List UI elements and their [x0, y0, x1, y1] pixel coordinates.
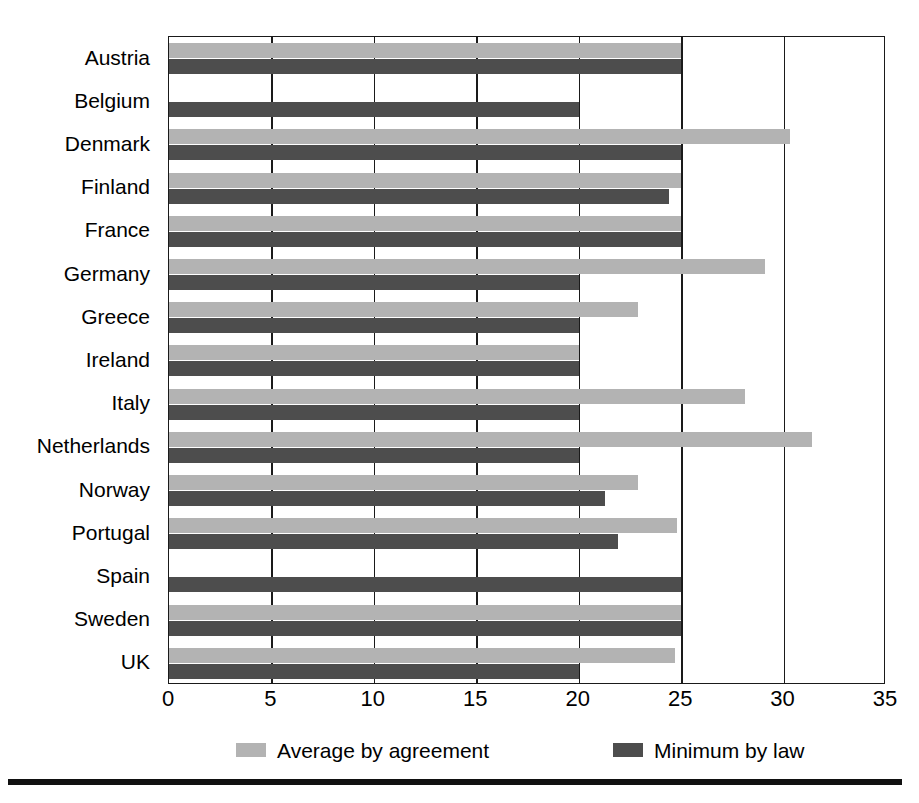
bar-group — [169, 253, 884, 296]
plot-area — [168, 36, 885, 684]
y-axis-label-sweden: Sweden — [74, 608, 150, 629]
bar-group — [169, 167, 884, 210]
x-axis-tick-10: 10 — [361, 688, 385, 710]
bar — [169, 275, 579, 290]
bar-group — [169, 80, 884, 123]
bar — [169, 491, 605, 506]
bar — [169, 448, 579, 463]
y-axis-label-finland: Finland — [81, 176, 150, 197]
bar — [169, 475, 638, 490]
x-axis-tick-25: 25 — [668, 688, 692, 710]
y-axis-label-italy: Italy — [111, 392, 150, 413]
x-axis-tick-30: 30 — [770, 688, 794, 710]
y-axis-labels: AustriaBelgiumDenmarkFinlandFranceGerman… — [0, 36, 160, 684]
bar-group — [169, 210, 884, 253]
bar — [169, 173, 681, 188]
bar-group — [169, 296, 884, 339]
y-axis-label-norway: Norway — [79, 479, 150, 500]
bar — [169, 43, 681, 58]
bar-group — [169, 339, 884, 382]
x-axis-tick-20: 20 — [565, 688, 589, 710]
bar-group — [169, 642, 884, 685]
bar — [169, 102, 579, 117]
y-axis-label-uk: UK — [121, 651, 150, 672]
bar — [169, 605, 681, 620]
bar — [169, 577, 681, 592]
bar — [169, 302, 638, 317]
legend-item-average-by-agreement[interactable]: Average by agreement — [236, 736, 489, 764]
x-axis-tick-0: 0 — [162, 688, 174, 710]
bar — [169, 648, 675, 663]
bar-group — [169, 469, 884, 512]
bar — [169, 345, 579, 360]
bar — [169, 361, 579, 376]
bar — [169, 129, 790, 144]
bar — [169, 518, 677, 533]
bar — [169, 59, 681, 74]
legend-label: Minimum by law — [654, 740, 805, 761]
y-axis-label-denmark: Denmark — [65, 133, 150, 154]
bar-group — [169, 555, 884, 598]
bar — [169, 232, 681, 247]
legend-swatch-icon — [613, 743, 643, 757]
legend-item-minimum-by-law[interactable]: Minimum by law — [613, 736, 805, 764]
bottom-divider — [8, 779, 902, 785]
y-axis-label-france: France — [85, 219, 150, 240]
chart-legend: Average by agreementMinimum by law — [0, 736, 919, 770]
y-axis-label-austria: Austria — [85, 47, 150, 68]
bar — [169, 621, 681, 636]
x-axis-tick-15: 15 — [463, 688, 487, 710]
bar — [169, 534, 618, 549]
bar-group — [169, 383, 884, 426]
bar — [169, 259, 765, 274]
bar — [169, 318, 579, 333]
y-axis-label-ireland: Ireland — [86, 349, 150, 370]
bar-layer — [169, 37, 884, 683]
y-axis-label-greece: Greece — [81, 306, 150, 327]
bar — [169, 405, 579, 420]
y-axis-label-belgium: Belgium — [74, 90, 150, 111]
x-axis-tick-5: 5 — [264, 688, 276, 710]
bar-group — [169, 426, 884, 469]
bar-group — [169, 512, 884, 555]
bar — [169, 145, 681, 160]
bar-group — [169, 123, 884, 166]
bar — [169, 216, 681, 231]
legend-swatch-icon — [236, 743, 266, 757]
chart-container: AustriaBelgiumDenmarkFinlandFranceGerman… — [0, 0, 919, 803]
bar-group — [169, 599, 884, 642]
y-axis-label-portugal: Portugal — [72, 522, 150, 543]
y-axis-label-spain: Spain — [96, 565, 150, 586]
bar — [169, 189, 669, 204]
x-axis-ticks: 05101520253035 — [168, 684, 885, 724]
x-axis-tick-35: 35 — [873, 688, 897, 710]
bar — [169, 432, 812, 447]
bar — [169, 389, 745, 404]
bar-group — [169, 37, 884, 80]
bar — [169, 664, 579, 679]
legend-label: Average by agreement — [277, 740, 489, 761]
y-axis-label-germany: Germany — [64, 263, 150, 284]
y-axis-label-netherlands: Netherlands — [37, 435, 150, 456]
